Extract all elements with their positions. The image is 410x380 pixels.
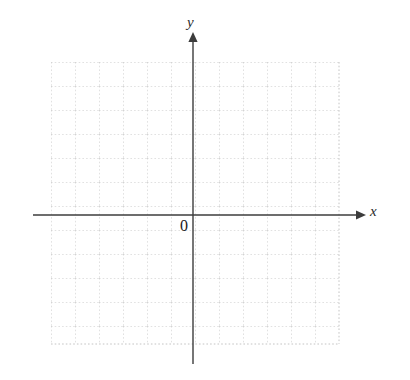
coordinate-grid-figure: y x 0 <box>0 0 410 380</box>
x-axis-arrow-icon <box>356 210 366 219</box>
grid-lines <box>51 62 339 344</box>
cartesian-plane-svg <box>0 0 410 380</box>
y-axis-arrow-icon <box>188 32 197 42</box>
x-axis-label: x <box>370 204 377 219</box>
origin-label: 0 <box>180 218 188 234</box>
y-axis-label: y <box>187 15 194 30</box>
